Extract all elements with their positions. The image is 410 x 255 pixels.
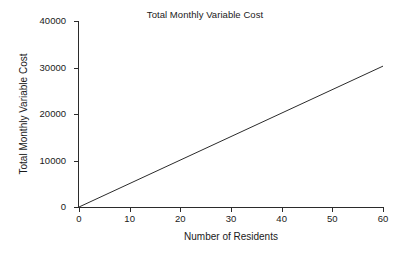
chart-figure: Total Monthly Variable Cost 010000200003…: [0, 0, 410, 255]
line-series: [79, 66, 383, 207]
series-layer: [0, 0, 410, 255]
line-series-group: [79, 66, 383, 207]
